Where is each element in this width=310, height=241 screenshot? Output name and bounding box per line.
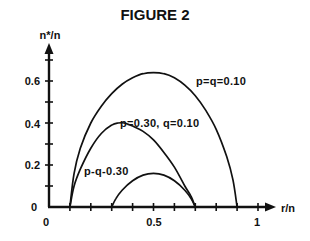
y-tick-label-0.4: 0.4 xyxy=(25,118,41,130)
curve-p-q-0.30 xyxy=(112,173,196,207)
y-tick-label-0.6: 0.6 xyxy=(25,75,40,87)
chart-title: FIGURE 2 xyxy=(120,6,189,23)
figure-2-chart: FIGURE 2 n*/n 0 0.5 1 r/n 0 0.2 0.4 0.6 … xyxy=(0,0,310,241)
x-axis-arrow-icon xyxy=(265,203,276,212)
x-tick-label-0: 0 xyxy=(43,216,49,228)
annotation-p-q-0.30: p-q-0.30 xyxy=(84,165,129,177)
x-axis-label: r/n xyxy=(281,202,295,214)
y-axis-label: n*/n xyxy=(40,29,61,41)
y-tick-label-0: 0 xyxy=(31,201,37,213)
x-tick-label-1: 1 xyxy=(254,216,260,228)
y-axis-arrow-icon xyxy=(45,43,54,54)
annotation-p-0.30-q-0.10: p=0.30, q=0.10 xyxy=(120,117,199,129)
x-tick-label-0.5: 0.5 xyxy=(146,216,161,228)
y-tick-label-0.2: 0.2 xyxy=(25,159,40,171)
annotation-p-q-0.10: p=q=0.10 xyxy=(196,75,246,87)
